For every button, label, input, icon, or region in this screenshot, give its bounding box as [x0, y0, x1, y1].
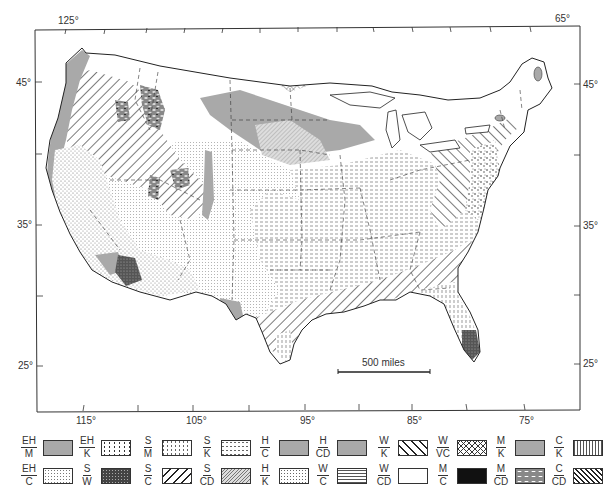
legend-label-denominator: CD: [552, 476, 566, 487]
legend-label: WCD: [373, 464, 395, 487]
legend-label: WVC: [432, 436, 454, 459]
legend-item: SW: [76, 464, 131, 487]
lat-label-35-left: 35°: [17, 219, 32, 230]
legend-swatch-wide-forward-hatch: [162, 468, 192, 484]
legend-label-numerator: H: [318, 436, 327, 448]
legend-item: HCD: [312, 436, 367, 459]
lat-label-25-left: 25°: [18, 360, 33, 371]
legend-label: WK: [373, 436, 395, 459]
legend-label-denominator: W: [82, 476, 91, 487]
soil-regions: [30, 40, 590, 380]
legend-label-denominator: C: [25, 476, 32, 487]
legend-swatch-gray-solid: [43, 440, 73, 456]
lon-label-125: 125°: [58, 15, 79, 26]
legend-label-numerator: W: [317, 464, 328, 476]
legend-item: HK: [254, 464, 309, 487]
lon-label-115: 115°: [76, 415, 96, 426]
legend-label: CCD: [548, 464, 570, 487]
legend-swatch-black-solid: [457, 468, 487, 484]
legend-label: SM: [137, 436, 159, 459]
legend-label: HK: [254, 464, 276, 487]
legend-label-numerator: W: [437, 436, 448, 448]
legend-label-denominator: VC: [436, 448, 450, 459]
legend-label: MCD: [490, 464, 512, 487]
legend-label-numerator: EH: [21, 436, 37, 448]
legend-label-numerator: S: [144, 464, 153, 476]
legend-swatch-white: [398, 468, 428, 484]
legend-label: CK: [548, 436, 570, 459]
legend-label-denominator: CD: [377, 476, 391, 487]
legend-label-numerator: EH: [21, 464, 37, 476]
legend-label-numerator: C: [554, 464, 563, 476]
legend-label: HCD: [312, 436, 334, 459]
legend: EHMEHCEHKSWSMSCSKSCDHCHKHCDWCWKWCDWVCMCM…: [0, 428, 611, 493]
legend-label-denominator: M: [144, 448, 152, 459]
legend-swatch-horizontal-dashes: [221, 440, 251, 456]
legend-item: EHM: [18, 436, 73, 459]
legend-label: MK: [490, 436, 512, 459]
legend-item: WK: [373, 436, 428, 459]
legend-item: WVC: [432, 436, 487, 459]
legend-label-denominator: C: [144, 476, 151, 487]
legend-label: EHK: [76, 436, 98, 459]
legend-swatch-coarse-stipple: [101, 440, 131, 456]
legend-swatch-gray-solid: [279, 440, 309, 456]
legend-label-denominator: C: [261, 448, 268, 459]
region-m-cd-rockies-4: [148, 175, 160, 200]
legend-label-denominator: K: [84, 448, 91, 459]
legend-swatch-fine-forward-hatch: [221, 468, 251, 484]
legend-item: CCD: [548, 464, 603, 487]
legend-label: MC: [432, 464, 454, 487]
legend-label: EHM: [18, 436, 40, 459]
legend-swatch-crosshatch: [457, 440, 487, 456]
legend-swatch-fine-stipple: [43, 468, 73, 484]
legend-item: SCD: [196, 464, 251, 487]
legend-label-denominator: CD: [316, 448, 330, 459]
legend-swatch-back-hatch: [398, 440, 428, 456]
legend-item: SM: [137, 436, 192, 459]
legend-label-denominator: C: [319, 476, 326, 487]
legend-item: MCD: [490, 464, 545, 487]
lon-label-65: 65°: [555, 13, 570, 24]
scale-bar-label: 500 miles: [362, 357, 405, 368]
legend-label-numerator: S: [83, 464, 92, 476]
legend-label-numerator: H: [260, 464, 269, 476]
legend-swatch-vertical-lines: [573, 440, 603, 456]
legend-swatch-horizontal-lines: [337, 468, 367, 484]
legend-label: HC: [254, 436, 276, 459]
legend-label: SW: [76, 464, 98, 487]
legend-label-denominator: K: [556, 448, 563, 459]
legend-item: SC: [137, 464, 192, 487]
legend-label-numerator: W: [378, 436, 389, 448]
legend-label: SK: [196, 436, 218, 459]
legend-item: CK: [548, 436, 603, 459]
legend-label-numerator: S: [203, 436, 212, 448]
lat-label-45-left: 45°: [16, 77, 31, 88]
legend-item: EHK: [76, 436, 131, 459]
legend-item: EHC: [18, 464, 73, 487]
legend-label-denominator: C: [439, 476, 446, 487]
top-ticks: [65, 27, 531, 34]
legend-label: SC: [137, 464, 159, 487]
legend-swatch-dense-back-hatch: [573, 468, 603, 484]
lon-label-85: 85°: [407, 415, 422, 426]
lat-label-35-right: 35°: [583, 220, 598, 231]
legend-label: WC: [312, 464, 334, 487]
legend-item: MK: [490, 436, 545, 459]
legend-item: SK: [196, 436, 251, 459]
legend-label-numerator: H: [260, 436, 269, 448]
lat-label-25-right: 25°: [583, 358, 598, 369]
legend-item: MC: [432, 464, 487, 487]
legend-item: HC: [254, 436, 309, 459]
legend-label-numerator: S: [203, 464, 212, 476]
legend-label-numerator: C: [554, 436, 563, 448]
legend-label-numerator: EH: [79, 436, 95, 448]
lon-label-75: 75°: [519, 415, 534, 426]
legend-swatch-gray-solid: [515, 440, 545, 456]
legend-label-denominator: K: [498, 448, 505, 459]
legend-label-numerator: M: [496, 436, 506, 448]
legend-swatch-mottled: [515, 468, 545, 484]
legend-label: SCD: [196, 464, 218, 487]
right-ticks: [574, 84, 580, 364]
legend-label-denominator: CD: [200, 476, 214, 487]
